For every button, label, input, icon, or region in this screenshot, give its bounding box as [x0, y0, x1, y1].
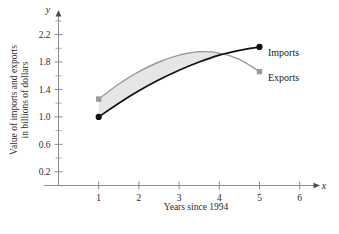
x-axis-arrow-icon [314, 183, 321, 189]
x-tick-label: 4 [217, 193, 222, 203]
legend-label-imports: Imports [268, 47, 299, 58]
x-tick-label: 6 [297, 193, 302, 203]
marker-exports [96, 96, 101, 101]
marker-imports [256, 44, 262, 50]
x-tick-label: 1 [96, 193, 101, 203]
legend-label-exports: Exports [268, 72, 299, 83]
y-axis-letter: y [45, 4, 51, 15]
x-axis-letter: x [321, 180, 327, 191]
y-tick-label: 2.2 [39, 30, 51, 40]
x-tick-label: 2 [137, 193, 142, 203]
y-tick-label: 0.2 [39, 167, 51, 177]
chart-figure: y x 0.20.61.01.41.82.2 123456 Imports Ex… [0, 0, 339, 234]
y-axis-title-line2: in billions of dollars [20, 61, 30, 138]
chart-canvas: y x 0.20.61.01.41.82.2 123456 Imports Ex… [0, 0, 339, 234]
y-tick-label: 1.0 [39, 112, 51, 122]
x-axis-ticks: 123456 [96, 182, 302, 203]
x-axis-title: Years since 1994 [164, 202, 229, 212]
y-tick-label: 1.8 [39, 57, 51, 67]
y-tick-label: 1.4 [39, 85, 51, 95]
y-axis-arrow-icon [56, 10, 62, 17]
marker-exports [257, 69, 262, 74]
x-tick-label: 3 [177, 193, 182, 203]
marker-imports [96, 114, 102, 120]
y-axis-title-line1: Value of imports and exports [9, 45, 19, 155]
y-tick-label: 0.6 [39, 140, 51, 150]
x-tick-label: 5 [257, 193, 262, 203]
